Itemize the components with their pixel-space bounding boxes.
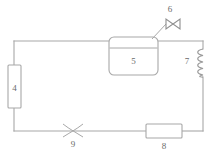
component-6-valve-left-triangle <box>166 19 173 29</box>
component-5-label: 5 <box>131 56 136 66</box>
component-6-connector <box>152 24 166 39</box>
component-6-valve-right-triangle <box>173 19 180 29</box>
component-6-label: 6 <box>168 4 173 14</box>
component-8-body <box>146 124 182 138</box>
component-8-label: 8 <box>162 141 167 151</box>
component-7-label: 7 <box>185 56 190 66</box>
component-9-label: 9 <box>71 139 76 149</box>
schematic-diagram: 4 5 6 7 8 9 <box>0 0 214 157</box>
component-7-coil-body <box>198 49 203 77</box>
schematic-canvas: 4 5 6 7 8 9 <box>0 0 214 157</box>
component-4-label: 4 <box>12 83 17 93</box>
